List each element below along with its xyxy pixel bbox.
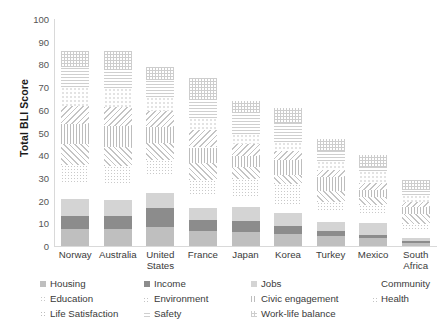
- segment-civic-engagement: [274, 160, 302, 175]
- x-axis-labels: NorwayAustraliaUnitedStatesFranceJapanKo…: [54, 249, 437, 275]
- segment-civic-engagement: [61, 124, 89, 144]
- legend-label: Housing: [50, 278, 86, 289]
- segment-housing: [402, 243, 430, 246]
- legend-row: Life SatisfactionSafetyWork-life balance: [40, 306, 438, 321]
- segment-civic-engagement: [189, 148, 217, 164]
- y-tick-80: 80: [15, 59, 49, 70]
- bar-south-africa[interactable]: [402, 180, 430, 246]
- legend-item-housing[interactable]: Housing: [40, 278, 144, 289]
- segment-environment: [146, 143, 174, 160]
- segment-safety: [359, 167, 387, 171]
- segment-education: [146, 160, 174, 176]
- segment-civic-engagement: [317, 177, 345, 191]
- segment-income: [359, 235, 387, 239]
- segment-life-satisfaction: [274, 142, 302, 151]
- legend-item-environment[interactable]: Environment: [144, 293, 251, 304]
- legend-item-life-satisfaction[interactable]: Life Satisfaction: [40, 308, 144, 319]
- x-label-south: SouthAfrica: [389, 249, 443, 271]
- legend-item-jobs[interactable]: Jobs: [251, 278, 371, 289]
- y-tick-50: 50: [15, 127, 49, 138]
- segment-income: [317, 231, 345, 236]
- segment-environment: [402, 214, 430, 224]
- segment-health: [104, 107, 132, 127]
- segment-work-life-balance: [359, 155, 387, 166]
- legend-item-community[interactable]: Community: [371, 278, 438, 289]
- segment-civic-engagement: [402, 207, 430, 215]
- segment-environment: [104, 147, 132, 166]
- legend-label: Community: [381, 278, 430, 289]
- segment-work-life-balance: [61, 51, 89, 68]
- segment-environment: [274, 175, 302, 185]
- legend-swatch-icon: [251, 281, 257, 287]
- bar-mexico[interactable]: [359, 155, 387, 246]
- segment-community: [104, 183, 132, 200]
- chart-root: Total BLI Score 1009080706050403020100 N…: [0, 0, 446, 334]
- segment-work-life-balance: [189, 78, 217, 100]
- bar-united-states[interactable]: [146, 67, 174, 246]
- bar-korea[interactable]: [274, 108, 302, 246]
- segment-community: [274, 204, 302, 213]
- segment-education: [359, 205, 387, 213]
- legend-item-income[interactable]: Income: [144, 278, 251, 289]
- segment-jobs: [402, 238, 430, 240]
- segment-life-satisfaction: [317, 161, 345, 170]
- segment-environment: [232, 167, 260, 179]
- segment-health: [274, 151, 302, 160]
- legend-swatch-icon: [40, 296, 46, 302]
- segment-housing: [189, 231, 217, 246]
- segment-safety: [232, 113, 260, 134]
- segment-safety: [317, 151, 345, 161]
- legend-item-safety[interactable]: Safety: [144, 308, 251, 319]
- legend-swatch-icon: [40, 311, 46, 317]
- y-tick-60: 60: [15, 104, 49, 115]
- segment-safety: [146, 80, 174, 97]
- segment-work-life-balance: [232, 101, 260, 113]
- segment-community: [232, 196, 260, 208]
- segment-work-life-balance: [402, 180, 430, 190]
- segment-life-satisfaction: [232, 134, 260, 144]
- chart-legend: HousingIncomeJobsCommunityEducationEnvir…: [40, 276, 438, 321]
- y-tick-40: 40: [15, 150, 49, 161]
- segment-housing: [359, 238, 387, 246]
- legend-item-work-life-balance[interactable]: Work-life balance: [251, 308, 371, 319]
- bars-container: [54, 19, 437, 246]
- bar-norway[interactable]: [61, 51, 89, 246]
- segment-safety: [104, 70, 132, 89]
- y-tick-70: 70: [15, 82, 49, 93]
- segment-civic-engagement: [146, 127, 174, 143]
- legend-item-education[interactable]: Education: [40, 293, 144, 304]
- bar-turkey[interactable]: [317, 139, 345, 246]
- segment-work-life-balance: [274, 108, 302, 123]
- segment-housing: [232, 232, 260, 246]
- segment-community: [402, 230, 430, 238]
- segment-education: [232, 179, 260, 195]
- segment-environment: [189, 163, 217, 180]
- segment-jobs: [104, 200, 132, 216]
- segment-housing: [146, 227, 174, 246]
- segment-income: [104, 216, 132, 229]
- segment-jobs: [274, 213, 302, 226]
- segment-income: [146, 208, 174, 227]
- segment-civic-engagement: [359, 190, 387, 197]
- bar-japan[interactable]: [232, 101, 260, 246]
- segment-safety: [189, 100, 217, 118]
- segment-life-satisfaction: [189, 118, 217, 131]
- legend-label: Civic engagement: [261, 293, 339, 304]
- segment-education: [274, 184, 302, 204]
- legend-label: Jobs: [261, 278, 281, 289]
- legend-row: EducationEnvironmentCivic engagementHeal…: [40, 291, 438, 306]
- bar-australia[interactable]: [104, 51, 132, 246]
- legend-swatch-icon: [251, 311, 257, 317]
- segment-income: [232, 221, 260, 231]
- segment-income: [61, 216, 89, 230]
- segment-health: [359, 183, 387, 189]
- segment-housing: [274, 234, 302, 246]
- legend-swatch-icon: [144, 281, 150, 287]
- segment-health: [61, 106, 89, 124]
- legend-item-civic-engagement[interactable]: Civic engagement: [251, 293, 371, 304]
- legend-swatch-icon: [144, 296, 150, 302]
- legend-item-health[interactable]: Health: [371, 293, 438, 304]
- segment-housing: [61, 229, 89, 246]
- segment-environment: [317, 191, 345, 202]
- bar-france[interactable]: [189, 78, 217, 246]
